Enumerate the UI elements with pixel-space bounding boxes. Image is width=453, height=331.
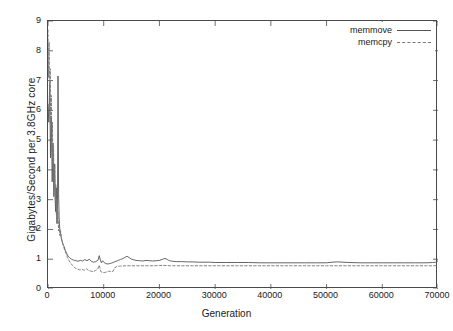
x-axis-title: Generation bbox=[0, 308, 453, 319]
legend-item-memmove: memmove bbox=[333, 25, 431, 36]
y-tick-label: 8 bbox=[36, 45, 41, 54]
chart-figure: Gigabytes/Second per 3.8GHz core 0123456… bbox=[0, 0, 453, 331]
legend-swatch-solid-icon bbox=[397, 30, 431, 31]
x-tick-label: 50000 bbox=[313, 291, 338, 300]
legend-swatch-dashed-icon bbox=[397, 42, 431, 43]
chart-legend: memmove memcpy bbox=[331, 22, 435, 52]
axis-tick-marks bbox=[48, 21, 438, 289]
data-series-group bbox=[48, 30, 438, 273]
y-tick-label: 6 bbox=[36, 105, 41, 114]
series-line-memcpy bbox=[48, 30, 438, 273]
x-tick-label: 70000 bbox=[424, 291, 449, 300]
legend-item-memcpy: memcpy bbox=[333, 37, 431, 48]
y-tick-label: 2 bbox=[36, 224, 41, 233]
plot-canvas bbox=[48, 21, 438, 289]
series-line-memmove bbox=[48, 76, 438, 264]
x-tick-label: 10000 bbox=[90, 291, 115, 300]
y-tick-label: 9 bbox=[36, 16, 41, 25]
legend-label-memmove: memmove bbox=[350, 26, 392, 35]
x-tick-label: 0 bbox=[44, 291, 49, 300]
x-tick-label: 40000 bbox=[257, 291, 282, 300]
y-tick-label: 3 bbox=[36, 194, 41, 203]
x-tick-label: 60000 bbox=[369, 291, 394, 300]
y-tick-label: 1 bbox=[36, 254, 41, 263]
x-tick-label: 20000 bbox=[146, 291, 171, 300]
x-tick-label: 30000 bbox=[202, 291, 227, 300]
y-tick-label: 7 bbox=[36, 75, 41, 84]
legend-label-memcpy: memcpy bbox=[358, 38, 392, 47]
y-tick-label: 5 bbox=[36, 135, 41, 144]
x-axis-tick-labels: 010000200003000040000500006000070000 bbox=[0, 291, 453, 305]
plot-area bbox=[47, 20, 437, 288]
y-axis-tick-labels: 0123456789 bbox=[0, 0, 47, 331]
y-tick-label: 4 bbox=[36, 164, 41, 173]
